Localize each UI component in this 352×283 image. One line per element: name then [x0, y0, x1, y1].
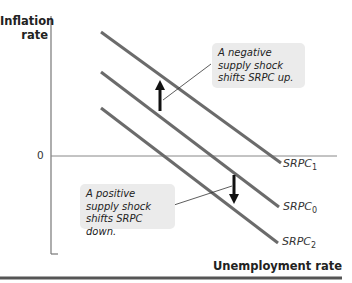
y-axis-label: Inflation rate [0, 14, 48, 42]
y-axis-label-line2: rate [0, 28, 48, 42]
srpc2-label-subscript: 2 [311, 241, 316, 250]
srpc0-label-name: SRPC [283, 200, 312, 213]
down-arrow-icon [229, 175, 239, 204]
srpc2-label-name: SRPC [282, 235, 311, 248]
srpc2-label: SRPC2 [282, 235, 316, 250]
negative-shock-callout: A negative supply shock shifts SRPC up. [212, 43, 305, 88]
srpc1-label-name: SRPC [283, 157, 312, 170]
y-axis-label-line1: Inflation [0, 14, 48, 28]
origin-label: 0 [37, 149, 44, 161]
srpc0-label-subscript: 0 [312, 206, 317, 215]
srpc1-label-subscript: 1 [312, 163, 317, 172]
srpc1-label: SRPC1 [283, 157, 317, 172]
srpc0-label: SRPC0 [283, 200, 317, 215]
up-arrow-icon [155, 80, 165, 111]
positive-shock-callout: A positive supply shock shifts SRPC down… [80, 184, 175, 229]
x-axis-label: Unemployment rate [213, 259, 342, 273]
